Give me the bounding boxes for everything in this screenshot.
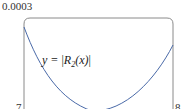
chart-plot bbox=[0, 0, 186, 109]
eq-prefix: y = bbox=[42, 53, 61, 67]
curve-equation-label: y = |R2(x)| bbox=[42, 53, 91, 69]
x-tick-right-label: 8 bbox=[175, 101, 181, 109]
eq-arg: (x) bbox=[75, 53, 88, 67]
x-tick-left-label: 7 bbox=[16, 101, 22, 109]
